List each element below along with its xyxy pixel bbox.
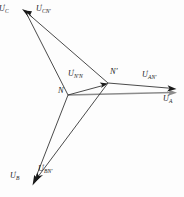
phasor-diagram-canvas	[0, 0, 184, 197]
label-UB-sub: B	[16, 175, 19, 181]
label-UA: ̇UA	[166, 95, 172, 103]
label-UA-sub: A	[169, 98, 172, 104]
label-UC: ̇UC	[2, 5, 9, 13]
label-UBNp-sub: BN′	[44, 168, 52, 174]
vector-UC	[22, 9, 68, 95]
phasor-diagram: ̇UC ̇UCN′ ̇UB ̇UBN′ ̇UA ̇UAN′ ̇UN′N N N′	[0, 0, 184, 197]
label-UANp: ̇UAN′	[145, 71, 156, 79]
label-UBNp: ̇UBN′	[41, 165, 52, 173]
label-UCNp: ̇UCN′	[39, 5, 51, 13]
vector-UNpN	[68, 82, 108, 95]
node-label-Np: N′	[110, 67, 118, 76]
label-UNpN: ̇UN′N	[71, 70, 83, 78]
vector-UANp	[108, 83, 177, 92]
label-UC-sub: C	[5, 8, 9, 14]
node-label-N: N	[58, 86, 64, 95]
label-UCNp-sub: CN′	[42, 8, 51, 14]
label-UANp-sub: AN′	[148, 74, 156, 80]
vector-UCNp	[24, 11, 108, 84]
label-UB: ̇UB	[13, 172, 19, 180]
label-UNpN-sub: N′N	[74, 73, 83, 79]
